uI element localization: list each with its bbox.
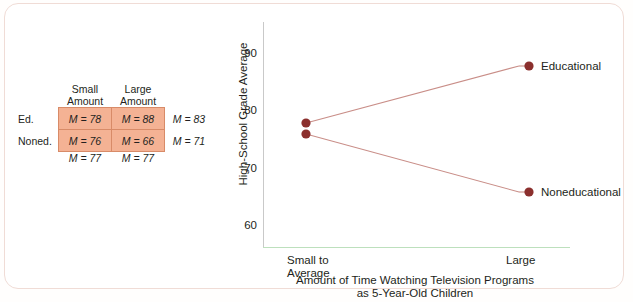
y-tick-label-80: 80 (244, 105, 257, 117)
table-row: Noned. M = 76 M = 66 M = 71 (18, 130, 213, 152)
column-header-small-amount: Small Amount (59, 84, 112, 108)
means-table: Small Amount Large Amount Ed. M = 78 M =… (18, 84, 213, 164)
series-label-noneducational: Noneducational (541, 186, 621, 198)
column-header-small-amount-line1: Small (59, 84, 112, 96)
chart-series-svg (263, 22, 570, 248)
table-header-row: Small Amount Large Amount (18, 84, 213, 108)
x-tick-label-large: Large (506, 254, 535, 267)
cell-educational-large: M = 88 (112, 108, 165, 130)
row-marginal-educational: M = 83 (165, 108, 214, 130)
y-tick-label-60: 60 (244, 220, 257, 232)
x-axis-title: Amount of Time Watching Television Progr… (245, 274, 585, 300)
column-marginal-small: M = 77 (59, 152, 112, 165)
column-marginal-large: M = 77 (112, 152, 165, 165)
data-point-noneducational-large[interactable] (524, 187, 533, 196)
data-point-noneducational-small[interactable] (301, 129, 310, 138)
series-line-noneducational (306, 134, 519, 192)
column-header-small-amount-line2: Amount (59, 96, 112, 108)
row-marginal-noneducational: M = 71 (165, 130, 214, 152)
column-header-large-amount-line2: Amount (112, 96, 165, 108)
row-marginal-header (165, 84, 214, 108)
interaction-line-chart: High-School Grade Average 90 80 70 60 (215, 12, 625, 292)
y-tick-label-70: 70 (244, 163, 257, 175)
column-marginal-label (18, 152, 59, 165)
factorial-means-table: Small Amount Large Amount Ed. M = 78 M =… (18, 84, 233, 189)
cell-noneducational-small: M = 76 (59, 130, 112, 152)
y-tick-label-90: 90 (244, 48, 257, 60)
table-corner-cell (18, 84, 59, 108)
data-point-educational-small[interactable] (301, 118, 310, 127)
x-axis-title-line1: Amount of Time Watching Television Progr… (245, 274, 585, 287)
x-axis-title-line2: as 5-Year-Old Children (245, 287, 585, 300)
data-point-educational-large[interactable] (524, 61, 533, 70)
grand-marginal-spacer (165, 152, 214, 165)
row-label-educational: Ed. (18, 108, 59, 130)
column-header-large-amount-line1: Large (112, 84, 165, 96)
plot-area: 90 80 70 60 Educational Noneducational (263, 22, 570, 248)
cell-noneducational-large: M = 66 (112, 130, 165, 152)
cell-educational-small: M = 78 (59, 108, 112, 130)
table-column-marginal-row: M = 77 M = 77 (18, 152, 213, 165)
series-line-educational (306, 66, 519, 123)
x-tick-label-small-to-average-line1: Small to (287, 254, 330, 267)
column-header-large-amount: Large Amount (112, 84, 165, 108)
figure-page: Small Amount Large Amount Ed. M = 78 M =… (0, 0, 633, 302)
row-label-noneducational: Noned. (18, 130, 59, 152)
table-row: Ed. M = 78 M = 88 M = 83 (18, 108, 213, 130)
series-label-educational: Educational (541, 60, 601, 72)
